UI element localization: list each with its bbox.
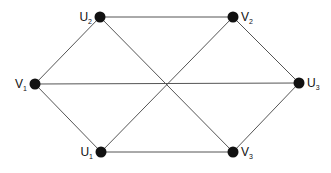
node-dot-icon bbox=[294, 78, 305, 89]
node-v1: V1 bbox=[15, 77, 40, 92]
node-label: U3 bbox=[307, 76, 320, 91]
graph-diagram: V1U2V2U3U1V3 bbox=[0, 0, 331, 173]
edge-u3-v2 bbox=[233, 17, 299, 83]
node-dot-icon bbox=[228, 12, 239, 23]
node-label: V1 bbox=[15, 77, 27, 92]
edge-u3-v3 bbox=[233, 83, 299, 152]
edge-u2-v1 bbox=[35, 17, 100, 84]
node-u2: U2 bbox=[79, 10, 105, 25]
node-v3: V3 bbox=[228, 145, 254, 160]
node-dot-icon bbox=[30, 79, 41, 90]
edges-group bbox=[35, 17, 299, 152]
node-v2: V2 bbox=[228, 10, 254, 25]
node-label: V3 bbox=[241, 145, 253, 160]
node-label: U2 bbox=[79, 10, 92, 25]
node-label: U1 bbox=[80, 145, 93, 160]
node-dot-icon bbox=[96, 147, 107, 158]
node-label: V2 bbox=[241, 10, 253, 25]
node-dot-icon bbox=[95, 12, 106, 23]
node-u3: U3 bbox=[294, 76, 320, 91]
edge-u1-v1 bbox=[35, 84, 101, 152]
edge-u3-v1 bbox=[35, 83, 299, 84]
node-dot-icon bbox=[228, 147, 239, 158]
node-u1: U1 bbox=[80, 145, 106, 160]
